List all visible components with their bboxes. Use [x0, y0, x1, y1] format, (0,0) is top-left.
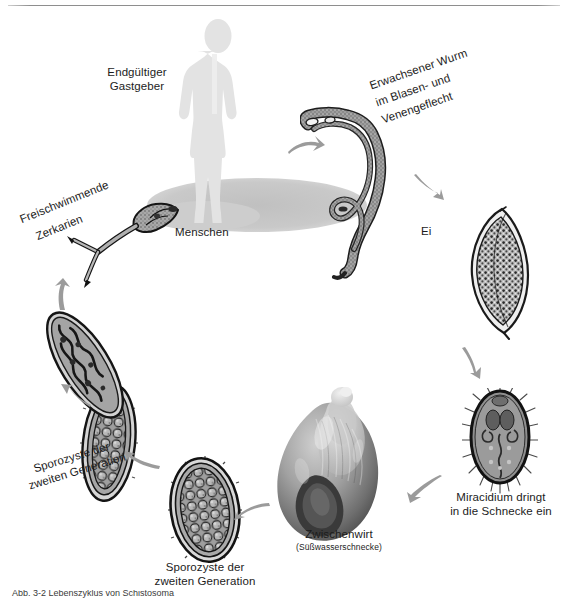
egg-illustration	[460, 205, 540, 340]
label-sporocyst-left: Sporozyste der zweiten Generation	[32, 463, 111, 477]
arrow-miracidium-to-snail	[404, 474, 444, 506]
human-silhouette	[172, 18, 264, 223]
label-sporocyst-center-line1: Sporozyste der	[166, 561, 245, 573]
arrow-adult-worm-to-egg	[412, 172, 446, 206]
lifecycle-figure: Endgültiger Gastgeber Menschen	[0, 0, 567, 602]
label-miracidium-line1: Miracidium dringt	[456, 491, 545, 503]
arrow-egg-to-miracidium	[459, 345, 489, 381]
adult-worm-illustration	[300, 105, 410, 280]
label-sporocyst-center-line2: zweiten Generation	[155, 575, 256, 587]
label-intermediate-host-sub: (Süßwasserschnecke)	[279, 542, 399, 552]
arrow-snail-to-sporocyst-center	[232, 500, 272, 526]
label-intermediate-host: Zwischenwirt	[283, 528, 395, 542]
label-adult-worm: Erwachsener Wurm im Blasen- und Venengef…	[368, 80, 470, 94]
label-definitive-host-line2: Gastgeber	[110, 80, 165, 92]
arrow-sporocyst-to-cercaria	[50, 278, 76, 312]
label-humans: Menschen	[175, 226, 229, 240]
label-cercariae: Freischwimmende Zerkarien	[18, 214, 113, 228]
sporocyst-upper-left-illustration	[40, 300, 130, 430]
miracidium-illustration	[462, 388, 538, 503]
figure-caption-strip: Abb. 3-2 Lebenszyklus von Schistosoma	[0, 590, 567, 602]
label-sporocyst-center: Sporozyste der zweiten Generation	[144, 561, 266, 588]
figure-caption: Abb. 3-2 Lebenszyklus von Schistosoma	[12, 590, 174, 598]
label-miracidium: Miracidium dringt in die Schnecke ein	[441, 491, 561, 518]
arrow-sporocyst-left-to-upper	[60, 382, 94, 410]
cercaria-illustration	[60, 198, 180, 288]
label-definitive-host: Endgültiger Gastgeber	[88, 66, 186, 93]
label-definitive-host-line1: Endgültiger	[107, 66, 166, 78]
label-miracidium-line2: in die Schnecke ein	[450, 505, 552, 517]
arrow-sporocyst-center-to-left	[124, 448, 162, 474]
arrow-human-to-adult-worm	[286, 134, 326, 164]
label-egg: Ei	[421, 225, 431, 239]
top-divider	[8, 5, 560, 6]
